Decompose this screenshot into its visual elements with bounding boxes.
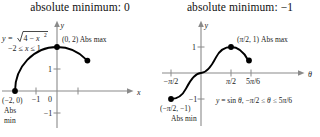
svg-text:(−π/2, −1): (−π/2, −1) — [160, 104, 191, 113]
annotation-minimum-left: (−2, 0) Abs min — [2, 96, 23, 125]
x-tick-label-neg-pi-2-right: −π/2 — [164, 77, 179, 86]
annotation-maximum-left: (0, 2) Abs max — [62, 35, 107, 44]
x-axis-left — [2, 88, 134, 94]
data-point-endpoint-left — [85, 58, 91, 64]
x-tick-label-5pi-6-right: 5π/6 — [246, 77, 260, 86]
svg-text:(−2, 0): (−2, 0) — [2, 96, 23, 105]
data-point-endpoint-right — [246, 58, 252, 64]
chart-sine-curve: θ y −π/2 π/2 5π/6 1 −1 (π/2, 1) Abs max … — [160, 16, 320, 137]
x-axis-label-left: x — [136, 88, 141, 97]
y-axis-left — [54, 21, 60, 128]
data-point-minimum-left — [12, 88, 18, 94]
data-point-minimum-right — [168, 96, 174, 102]
data-point-maximum-left — [54, 44, 60, 50]
x-tick-label-pi-2-right: π/2 — [226, 77, 236, 86]
y-tick-label-1-right: 1 — [192, 43, 196, 52]
panel-heading-left: absolute minimum: 0 — [0, 1, 160, 13]
figure-panel-right: absolute minimum: −1 — [160, 0, 320, 137]
svg-text:min: min — [4, 116, 16, 125]
figure-panel-left: absolute minimum: 0 — [0, 0, 160, 137]
x-tick-label-neg1-left: −1 — [32, 95, 41, 104]
y-axis-label-right: y — [204, 21, 209, 30]
x-axis-label-right: θ — [308, 70, 312, 79]
svg-text:Abs: Abs — [4, 106, 16, 115]
data-point-maximum-right — [228, 44, 234, 50]
y-axis-label-left: y — [60, 21, 65, 30]
svg-text:Abs min: Abs min — [171, 114, 197, 123]
svg-text:y =: y = — [1, 34, 13, 43]
svg-text:4 − x: 4 − x — [24, 34, 41, 43]
y-tick-label-neg1-left: −1 — [44, 109, 53, 118]
y-tick-label-1-left: 1 — [48, 65, 52, 74]
annotation-maximum-right: (π/2, 1) Abs max — [237, 35, 288, 44]
y-tick-label-neg1-right: −1 — [189, 95, 198, 104]
chart-semicircle-arc: x y −1 0 1 −1 y = 4 − x 2 −2 ≤ x ≤ 1 (0,… — [0, 16, 160, 137]
svg-text:2: 2 — [44, 32, 47, 38]
annotation-minimum-right: (−π/2, −1) Abs min — [160, 104, 197, 123]
svg-text:−2 ≤ x ≤ 1: −2 ≤ x ≤ 1 — [8, 44, 41, 53]
panel-heading-right: absolute minimum: −1 — [160, 1, 320, 13]
x-tick-label-0-left: 0 — [48, 95, 52, 104]
equation-annotation-right: y = sin θ, −π/2 ≤ θ ≤ 5π/6 — [215, 96, 292, 105]
x-axis-right — [162, 70, 305, 76]
